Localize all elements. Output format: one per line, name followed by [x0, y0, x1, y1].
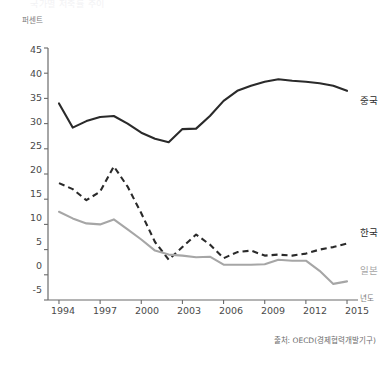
series-label-korea: 한국 — [360, 225, 378, 239]
series-line-korea — [59, 166, 347, 259]
axis-lines — [48, 48, 358, 300]
series-line-japan — [59, 212, 347, 284]
series-label-japan: 일본 — [360, 263, 378, 277]
series-line-china — [59, 79, 347, 142]
series-label-china: 중국 — [360, 93, 378, 107]
source-note: 출처: OECD(경제협력개발기구) — [274, 334, 376, 345]
chart-container: 국가별 저축률 추이 퍼센트 년도 45 40 35 30 25 20 15 1… — [0, 0, 388, 365]
plot-area — [0, 0, 388, 365]
